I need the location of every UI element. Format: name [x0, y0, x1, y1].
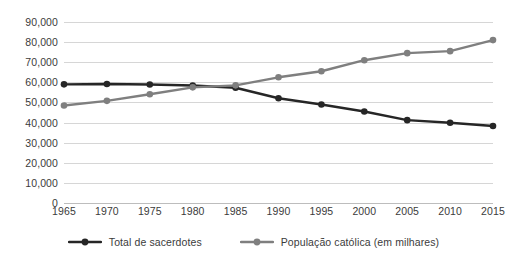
- x-tick-label: 1995: [310, 205, 334, 217]
- data-point: [147, 81, 154, 88]
- x-tick-label: 2000: [352, 205, 376, 217]
- x-tick-label: 1990: [267, 205, 291, 217]
- data-point: [404, 50, 411, 57]
- data-point: [232, 82, 239, 89]
- series-line: [64, 84, 493, 126]
- y-tick-label: 20,000: [25, 157, 58, 169]
- data-point: [404, 117, 411, 124]
- legend-item[interactable]: População católica (em milhares): [240, 236, 439, 248]
- x-tick-label: 1980: [181, 205, 205, 217]
- data-point: [104, 81, 111, 88]
- x-tick-label: 2005: [395, 205, 419, 217]
- data-point: [104, 98, 111, 105]
- data-point: [447, 119, 454, 126]
- data-point: [490, 123, 497, 130]
- legend-item[interactable]: Total de sacerdotes: [68, 236, 202, 248]
- line-chart: 010,00020,00030,00040,00050,00060,00070,…: [0, 0, 507, 265]
- data-point: [318, 101, 325, 108]
- y-tick-label: 40,000: [25, 117, 58, 129]
- gridline-0: [64, 203, 493, 204]
- y-tick-label: 50,000: [25, 96, 58, 108]
- data-point: [490, 37, 497, 44]
- data-point: [361, 57, 368, 64]
- data-point: [318, 68, 325, 75]
- legend-label: Total de sacerdotes: [109, 236, 202, 248]
- data-point: [61, 81, 68, 88]
- series-1: [61, 81, 497, 130]
- x-axis: 1965197019751980198519901995200020052010…: [64, 205, 493, 223]
- data-point: [275, 95, 282, 102]
- data-point: [361, 108, 368, 115]
- y-tick-label: 10,000: [25, 177, 58, 189]
- data-point: [447, 48, 454, 55]
- x-tick-label: 1985: [224, 205, 248, 217]
- x-tick-label: 1970: [95, 205, 119, 217]
- legend-label: População católica (em milhares): [281, 236, 439, 248]
- legend-marker-icon: [68, 236, 102, 248]
- y-tick-label: 30,000: [25, 137, 58, 149]
- x-tick-label: 1965: [52, 205, 76, 217]
- y-axis: 010,00020,00030,00040,00050,00060,00070,…: [0, 22, 58, 203]
- x-tick-label: 1975: [138, 205, 162, 217]
- chart-legend: Total de sacerdotesPopulação católica (e…: [0, 230, 507, 254]
- y-tick-label: 70,000: [25, 56, 58, 68]
- x-tick-label: 2015: [481, 205, 505, 217]
- plot-area: [64, 22, 493, 203]
- x-tick-label: 2010: [438, 205, 462, 217]
- data-point: [275, 74, 282, 81]
- data-point: [147, 91, 154, 98]
- data-point: [189, 84, 196, 91]
- series-layer: [64, 22, 493, 203]
- data-point: [61, 102, 68, 109]
- legend-marker-icon: [240, 236, 274, 248]
- y-tick-label: 80,000: [25, 36, 58, 48]
- y-tick-label: 90,000: [25, 16, 58, 28]
- y-tick-label: 60,000: [25, 76, 58, 88]
